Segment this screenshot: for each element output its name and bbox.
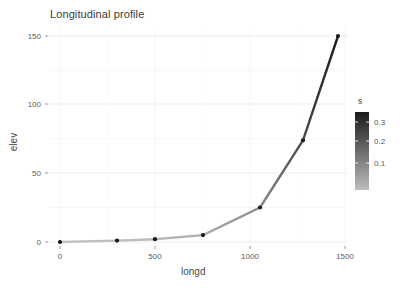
data-point: [301, 138, 305, 142]
legend-colorbar: s 0.3 0.2 0.1: [355, 96, 386, 190]
line-segment: [117, 239, 155, 240]
legend-title: s: [358, 96, 362, 106]
x-tick-label: 0: [58, 252, 63, 261]
line-segment: [60, 241, 117, 242]
data-point: [58, 240, 62, 244]
data-point: [153, 237, 157, 241]
chart-container: Longitudinal profile: [0, 0, 411, 288]
legend-tick-label: 0.2: [374, 137, 386, 146]
legend-tick-label: 0.3: [374, 118, 386, 127]
x-axis-ticks: 0 500 1000 1500: [58, 246, 355, 261]
data-point: [115, 239, 119, 243]
legend-gradient-bar: [355, 112, 369, 190]
y-axis-title: elev: [8, 120, 19, 164]
y-tick-label: 0: [37, 238, 42, 247]
data-point: [258, 205, 262, 209]
y-tick-label: 50: [32, 169, 41, 178]
y-axis-ticks: 0 50 100 150: [28, 32, 48, 247]
x-tick-label: 500: [148, 252, 162, 261]
y-tick-label: 150: [28, 32, 42, 41]
chart-plot-area: 0 50 100 150 0 500 1000 1500 s: [0, 0, 411, 288]
x-tick-label: 1500: [336, 252, 354, 261]
x-axis-title: longd: [0, 266, 411, 277]
data-point: [201, 233, 205, 237]
legend-tick-label: 0.1: [374, 159, 386, 168]
y-tick-label: 100: [28, 100, 42, 109]
data-point: [336, 34, 340, 38]
x-tick-label: 1000: [241, 252, 259, 261]
